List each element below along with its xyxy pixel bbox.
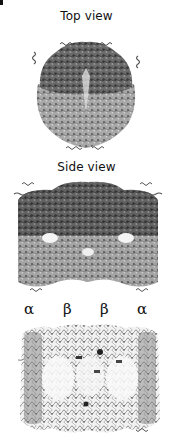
subunit-label-alpha-left: α <box>24 300 34 318</box>
panel-marker <box>0 0 3 5</box>
top-view-structure-image <box>30 36 142 151</box>
subunit-label-beta-right: β <box>100 300 109 318</box>
side-view-structure-image <box>12 178 164 296</box>
side-view-label: Side view <box>0 160 173 174</box>
cross-section-structure-image <box>14 320 164 440</box>
subunit-label-beta-left: β <box>63 300 72 318</box>
top-view-label: Top view <box>0 9 173 23</box>
subunit-labels: α β β α <box>0 300 173 320</box>
subunit-label-alpha-right: α <box>137 300 147 318</box>
